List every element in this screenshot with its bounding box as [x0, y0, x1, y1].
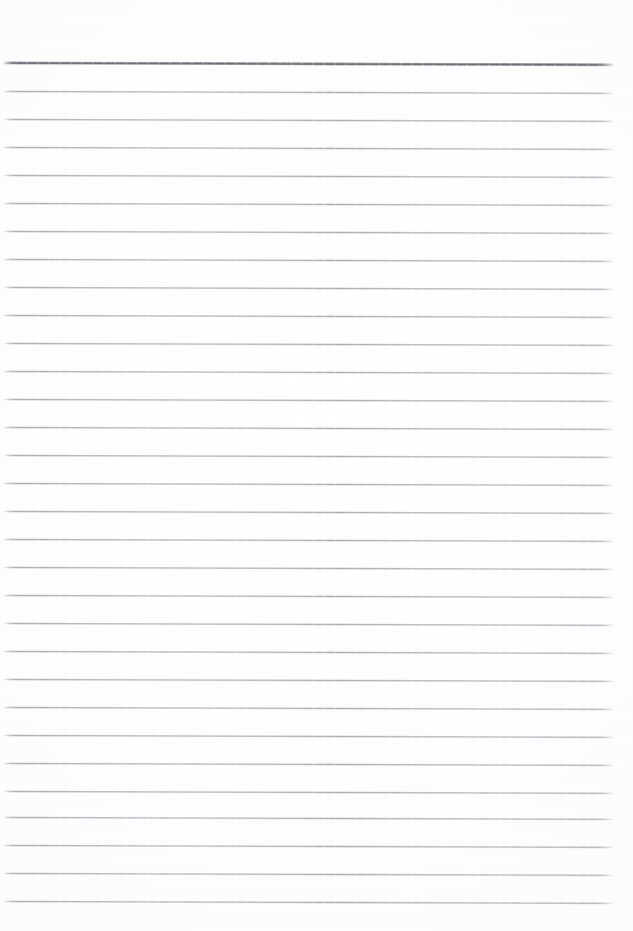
rule-stroke — [4, 398, 613, 403]
rule-stroke — [4, 314, 613, 319]
ruled-line — [4, 872, 613, 877]
ruled-line — [4, 650, 613, 655]
scanned-page — [0, 0, 633, 931]
rule-stroke — [4, 510, 613, 515]
ruled-line — [4, 258, 613, 263]
rule-stroke — [4, 566, 613, 571]
rule-stroke — [4, 734, 613, 739]
ruled-line — [4, 370, 613, 375]
rule-stroke — [4, 118, 613, 123]
rule-stroke — [4, 762, 613, 767]
rule-stroke — [4, 706, 613, 711]
header-rule-line — [4, 61, 613, 67]
rule-stroke — [4, 286, 613, 291]
rule-stroke — [4, 594, 613, 599]
rule-stroke — [4, 342, 613, 347]
ruled-line — [4, 790, 613, 795]
ruled-line — [4, 706, 613, 711]
ruled-line — [4, 314, 613, 319]
rule-stroke — [4, 678, 613, 683]
ruled-line — [4, 566, 613, 571]
ruled-line — [4, 678, 613, 683]
ruled-line — [4, 90, 613, 95]
ruled-line — [4, 734, 613, 739]
ruled-line — [4, 454, 613, 459]
ruled-line — [4, 118, 613, 123]
rule-stroke — [4, 174, 613, 179]
rule-stroke — [4, 370, 613, 375]
ruled-line — [4, 202, 613, 207]
rule-stroke — [4, 230, 613, 235]
ruled-line — [4, 594, 613, 599]
rule-stroke — [4, 538, 613, 543]
ruled-line — [4, 426, 613, 431]
ruled-line — [4, 510, 613, 515]
rule-stroke — [4, 426, 613, 431]
ruled-line — [4, 622, 613, 627]
ruled-line — [4, 538, 613, 543]
ruled-line — [4, 900, 613, 905]
ruled-line — [4, 844, 613, 849]
ruled-line — [4, 146, 613, 151]
rule-stroke — [4, 482, 613, 487]
rule-stroke — [4, 622, 613, 627]
ruled-line — [4, 174, 613, 179]
ruled-line — [4, 762, 613, 767]
rule-stroke — [4, 790, 613, 795]
rule-stroke — [4, 844, 613, 849]
rule-stroke — [4, 900, 613, 905]
ruled-line — [4, 342, 613, 347]
rule-stroke — [4, 872, 613, 877]
ruled-line — [4, 482, 613, 487]
rule-stroke — [4, 61, 613, 67]
rule-stroke — [4, 90, 613, 95]
rule-stroke — [4, 146, 613, 151]
rule-stroke — [4, 454, 613, 459]
rule-stroke — [4, 202, 613, 207]
ruled-line — [4, 230, 613, 235]
ruled-line — [4, 286, 613, 291]
ruled-line — [4, 816, 613, 821]
ruled-lines-container — [0, 0, 633, 931]
rule-stroke — [4, 816, 613, 821]
rule-stroke — [4, 650, 613, 655]
ruled-line — [4, 398, 613, 403]
rule-stroke — [4, 258, 613, 263]
